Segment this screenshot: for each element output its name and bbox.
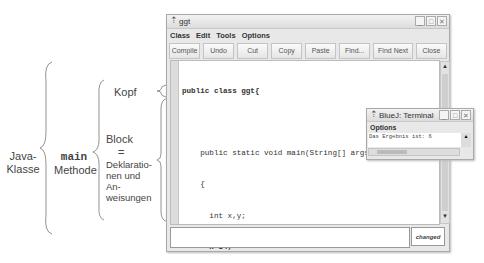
- label-kopf: Kopf: [114, 86, 137, 99]
- code-line: int x,y;: [182, 211, 414, 221]
- status-field: [170, 227, 410, 248]
- code-line: public class ggt{: [182, 86, 414, 96]
- editor-toolbar: Compile Undo Cut Copy Paste Find... Find…: [169, 43, 447, 59]
- menu-class[interactable]: Class: [170, 31, 190, 40]
- editor-gutter: [171, 61, 179, 224]
- terminal-output: Das Ergebnis ist: 6: [368, 133, 461, 147]
- scroll-down-icon[interactable]: ▼: [441, 213, 449, 222]
- label-block-line3: weisungen: [106, 192, 156, 203]
- terminal-vertical-scrollbar[interactable]: ▲: [461, 133, 471, 147]
- copy-button[interactable]: Copy: [271, 43, 302, 59]
- menu-options[interactable]: Options: [370, 124, 396, 131]
- label-block-line2: nen und An-: [106, 170, 156, 192]
- compile-button[interactable]: Compile: [169, 43, 200, 59]
- scroll-up-icon[interactable]: ▲: [441, 63, 449, 72]
- close-button[interactable]: Close: [416, 43, 447, 59]
- paste-button[interactable]: Paste: [305, 43, 336, 59]
- terminal-titlebar[interactable]: ⇡ BlueJ: Terminal _ □ ✕: [367, 109, 473, 122]
- terminal-title: BlueJ: Terminal: [379, 111, 434, 120]
- editor-titlebar[interactable]: ⇡ ggt _ □ ✕: [167, 15, 449, 29]
- label-block-title: Block: [106, 133, 156, 146]
- label-block: Block = Deklaratio- nen und An- weisunge…: [106, 133, 156, 203]
- close-icon[interactable]: ✕: [461, 110, 471, 120]
- editor-menubar: Class Edit Tools Options: [167, 29, 449, 41]
- terminal-menubar: Options: [367, 122, 473, 132]
- terminal-window: ⇡ BlueJ: Terminal _ □ ✕ Options Das Erge…: [366, 108, 474, 160]
- label-java-klasse: Java- Klasse: [4, 150, 42, 176]
- label-block-line1: Deklaratio-: [106, 159, 156, 170]
- brace-class: [40, 62, 54, 234]
- brace-method: [93, 80, 105, 220]
- code-line: {: [182, 179, 414, 189]
- menu-options[interactable]: Options: [242, 31, 270, 40]
- scroll-thumb[interactable]: [377, 150, 407, 154]
- editor-title: ggt: [179, 17, 190, 26]
- close-icon[interactable]: ✕: [437, 16, 447, 26]
- label-main: main: [54, 151, 94, 164]
- label-equals: =: [106, 146, 156, 159]
- maximize-icon[interactable]: □: [450, 110, 460, 120]
- menu-edit[interactable]: Edit: [196, 31, 210, 40]
- label-klasse: Klasse: [4, 163, 42, 176]
- undo-button[interactable]: Undo: [203, 43, 234, 59]
- changed-indicator: changed: [411, 227, 445, 246]
- minimize-icon[interactable]: _: [415, 16, 425, 26]
- bluej-pin-icon: ⇡: [370, 109, 378, 119]
- bluej-pin-icon: ⇡: [170, 15, 178, 25]
- label-methode: Methode: [54, 164, 94, 177]
- menu-tools[interactable]: Tools: [216, 31, 235, 40]
- minimize-icon[interactable]: _: [439, 110, 449, 120]
- maximize-icon[interactable]: □: [426, 16, 436, 26]
- label-main-methode: main Methode: [54, 151, 94, 177]
- cut-button[interactable]: Cut: [237, 43, 268, 59]
- find-next-button[interactable]: Find Next: [373, 43, 413, 59]
- find-button[interactable]: Find...: [339, 43, 370, 59]
- label-java: Java-: [4, 150, 42, 163]
- terminal-horizontal-scrollbar[interactable]: [368, 148, 460, 156]
